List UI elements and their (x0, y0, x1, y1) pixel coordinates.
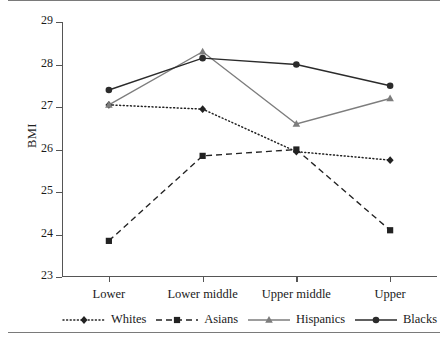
series-line (109, 52, 390, 124)
data-point-marker-triangle (386, 95, 394, 102)
data-point-marker-circle (373, 316, 380, 323)
y-tick-label: 28 (41, 56, 53, 71)
data-point-marker-circle (106, 87, 113, 94)
x-tick-mark (203, 277, 204, 282)
series-asians (106, 146, 393, 244)
legend-item-blacks[interactable]: Blacks (354, 312, 437, 327)
legend-label: Whites (111, 312, 146, 327)
plot-area: 23242526272829 LowerLower middleUpper mi… (62, 22, 437, 277)
legend-item-asians[interactable]: Asians (155, 312, 238, 327)
y-tick-label: 24 (41, 226, 53, 241)
x-tick-label: Lower middle (167, 287, 237, 302)
legend-label: Blacks (403, 312, 437, 327)
bmi-line-chart-figure: BMI 23242526272829 LowerLower middleUppe… (0, 0, 448, 344)
legend-key-blacks (354, 314, 398, 326)
y-tick-label: 25 (41, 183, 53, 198)
legend-label: Asians (204, 312, 238, 327)
x-tick-label: Lower (93, 287, 126, 302)
data-point-marker-circle (199, 55, 206, 62)
legend-label: Hispanics (296, 312, 345, 327)
series-line (109, 58, 390, 90)
series-line (109, 105, 390, 160)
legend-key-asians (155, 314, 199, 326)
series-whites (105, 101, 393, 164)
x-tick-mark (109, 277, 110, 282)
data-point-marker-circle (293, 61, 300, 68)
data-point-marker-square (174, 316, 180, 322)
legend-key-hispanics (247, 314, 291, 326)
legend-item-hispanics[interactable]: Hispanics (247, 312, 345, 327)
data-point-marker-diamond (387, 156, 394, 164)
series-hispanics (105, 48, 394, 127)
y-axis-title: BMI (25, 106, 40, 166)
y-tick-mark (56, 277, 62, 278)
legend-key-whites (62, 314, 106, 326)
data-point-marker-square (293, 146, 299, 152)
x-tick-mark (296, 277, 297, 282)
data-point-marker-square (106, 238, 112, 244)
y-tick-label: 29 (41, 13, 53, 28)
chart-legend: WhitesAsiansHispanicsBlacks (62, 312, 437, 327)
legend-item-whites[interactable]: Whites (62, 312, 146, 327)
y-tick-label: 27 (41, 98, 53, 113)
data-point-marker-circle (387, 82, 394, 89)
series-lines-layer (62, 22, 437, 277)
x-tick-label: Upper middle (262, 287, 331, 302)
series-line (109, 150, 390, 241)
data-point-marker-square (200, 153, 206, 159)
y-tick-label: 23 (41, 268, 53, 283)
x-tick-mark (390, 277, 391, 282)
data-point-marker-diamond (81, 316, 88, 324)
data-point-marker-square (387, 227, 393, 233)
x-tick-label: Upper (375, 287, 406, 302)
data-point-marker-diamond (199, 105, 206, 113)
y-tick-label: 26 (41, 141, 53, 156)
data-point-marker-triangle (199, 48, 207, 55)
